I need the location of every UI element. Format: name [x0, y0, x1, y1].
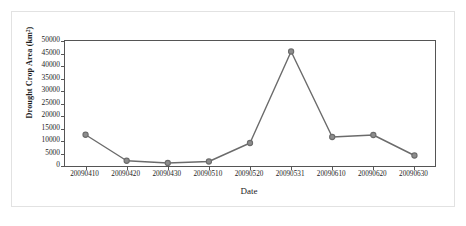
data-point: [165, 160, 170, 165]
plot-area: [64, 40, 436, 167]
y-axis-tick-label: 35000: [26, 74, 60, 82]
y-axis-tick-label: 0: [26, 161, 60, 169]
y-axis-tick-mark: [61, 79, 65, 80]
series-polyline: [86, 52, 415, 164]
chart-figure: Drought Crop Area (km²) 0500010000150002…: [0, 0, 466, 226]
y-axis-tick-mark: [61, 54, 65, 55]
y-axis-tick-mark: [61, 91, 65, 92]
data-point: [83, 132, 88, 137]
y-axis-tick-label: 10000: [26, 136, 60, 144]
y-axis-tick-mark: [61, 41, 65, 42]
x-axis-tick-labels: 2009041020090420200904302009051020090520…: [0, 170, 466, 184]
data-series-drought-crop-area: [65, 41, 435, 166]
y-axis-tick-label: 5000: [26, 149, 60, 157]
y-axis-tick-label: 40000: [26, 61, 60, 69]
y-axis-tick-mark: [61, 141, 65, 142]
y-axis-tick-mark: [61, 104, 65, 105]
data-point: [371, 132, 376, 137]
y-axis-tick-mark: [61, 129, 65, 130]
data-point: [330, 134, 335, 139]
y-axis-tick-mark: [61, 116, 65, 117]
x-axis-tick-label: 20090630: [384, 170, 442, 178]
y-axis-tick-label: 30000: [26, 86, 60, 94]
y-axis-tick-label: 15000: [26, 124, 60, 132]
data-point: [289, 49, 294, 54]
data-point: [124, 158, 129, 163]
y-axis-tick-label: 50000: [26, 36, 60, 44]
y-axis-tick-mark: [61, 154, 65, 155]
y-axis-tick-label: 20000: [26, 111, 60, 119]
series-markers: [83, 49, 417, 166]
x-axis-title: Date: [64, 186, 434, 196]
data-point: [247, 140, 252, 145]
y-axis-tick-label: 45000: [26, 49, 60, 57]
y-axis-tick-mark: [61, 66, 65, 67]
data-point: [412, 153, 417, 158]
data-point: [206, 159, 211, 164]
y-axis-tick-labels: 0500010000150002000025000300003500040000…: [24, 0, 60, 226]
y-axis-tick-label: 25000: [26, 99, 60, 107]
line-chart: Drought Crop Area (km²) 0500010000150002…: [0, 0, 466, 226]
y-axis-tick-mark: [61, 166, 65, 167]
